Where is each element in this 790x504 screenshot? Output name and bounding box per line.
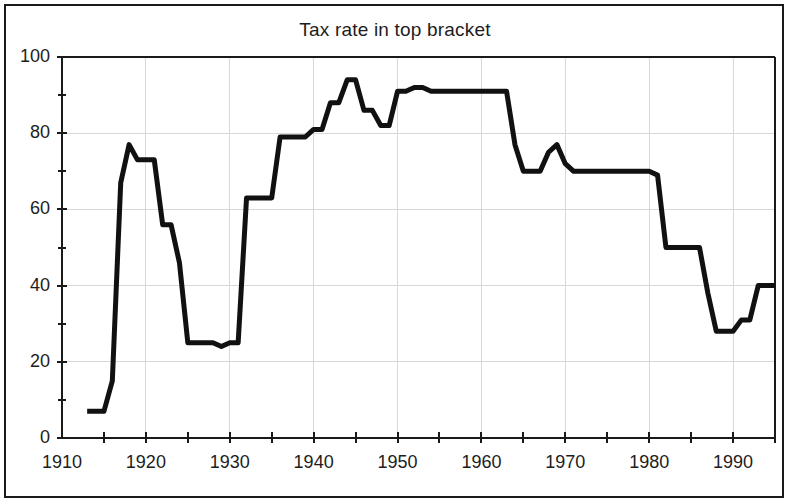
x-axis-tick-label: 1940 <box>284 452 344 473</box>
y-axis-tick-label: 60 <box>4 198 50 219</box>
y-axis-tick-label: 20 <box>4 351 50 372</box>
y-axis-tick-label: 40 <box>4 275 50 296</box>
x-axis-tick-label: 1930 <box>200 452 260 473</box>
chart-page: Tax rate in top bracket 100806040200 191… <box>0 0 790 504</box>
line-chart-plot <box>0 0 790 504</box>
y-axis-tick-label: 100 <box>4 46 50 67</box>
x-axis-tick-label: 1970 <box>535 452 595 473</box>
y-axis-tick-label: 0 <box>4 427 50 448</box>
x-axis-tick-label: 1960 <box>451 452 511 473</box>
x-axis-tick-label: 1990 <box>703 452 763 473</box>
x-axis-tick-label: 1910 <box>32 452 92 473</box>
x-axis-tick-label: 1950 <box>368 452 428 473</box>
x-axis-tick-label: 1980 <box>619 452 679 473</box>
y-axis-tick-label: 80 <box>4 122 50 143</box>
x-axis-tick-label: 1920 <box>116 452 176 473</box>
